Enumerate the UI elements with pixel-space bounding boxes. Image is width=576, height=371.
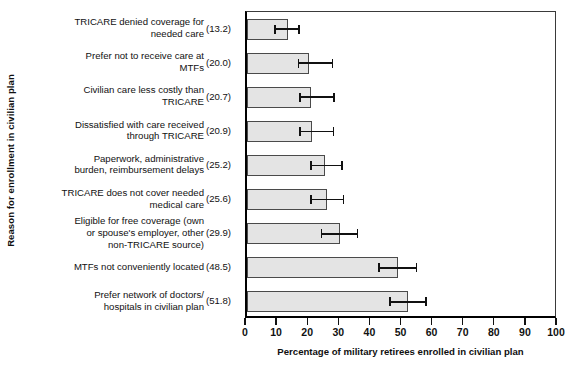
error-bar-cap-low [274, 25, 276, 34]
x-axis-tick [400, 318, 401, 325]
x-axis-tick [493, 318, 494, 325]
category-label-row: Prefer network of doctors/ hospitals in … [22, 284, 204, 318]
category-label: Civilian care less costly than TRICARE [83, 84, 204, 108]
value-label: (29.9) [206, 227, 231, 238]
error-bar-cap-high [343, 195, 345, 204]
category-label-row: MTFs not conveniently located [22, 250, 204, 284]
error-bar-cap-low [378, 263, 380, 272]
error-bar [311, 165, 342, 167]
error-bar-cap-high [333, 93, 335, 102]
value-label-row: (48.5) [206, 250, 242, 284]
value-label-row: (13.2) [206, 11, 242, 45]
x-axis-tick [369, 318, 370, 325]
x-axis-tick-label: 0 [242, 326, 248, 338]
y-axis-title-text: Reason for enrollment in civilian plan [5, 74, 16, 247]
error-bar-cap-low [310, 195, 312, 204]
chart-page: Reason for enrollment in civilian plan T… [0, 0, 576, 371]
error-bar-cap-high [298, 25, 300, 34]
value-label-row: (20.0) [206, 45, 242, 79]
y-axis-title: Reason for enrollment in civilian plan [0, 0, 20, 320]
category-label-row: Prefer not to receive care at MTFs [22, 45, 204, 79]
error-bar-cap-low [299, 127, 301, 136]
value-label: (20.7) [206, 91, 231, 102]
bar [247, 257, 398, 278]
category-label-column: TRICARE denied coverage for needed careP… [22, 11, 204, 318]
error-bar-cap-high [333, 127, 335, 136]
error-bar [275, 28, 299, 30]
error-bar-cap-high [332, 59, 334, 68]
x-axis-tick [555, 318, 556, 325]
value-label: (25.2) [206, 159, 231, 170]
category-label: Paperwork, administrative burden, reimbu… [74, 153, 204, 177]
x-axis-tick-label: 50 [395, 326, 407, 338]
x-axis-tick [338, 318, 339, 325]
category-label: TRICARE denied coverage for needed care [74, 16, 204, 40]
error-bar-cap-high [425, 297, 427, 306]
plot-area [245, 11, 556, 318]
x-axis-tick-label: 20 [301, 326, 313, 338]
value-label: (48.5) [206, 261, 231, 272]
error-bar-cap-low [299, 93, 301, 102]
error-bar-cap-high [416, 263, 418, 272]
x-axis-tick [524, 318, 525, 325]
value-label-row: (20.7) [206, 79, 242, 113]
x-axis-tick [307, 318, 308, 325]
error-bar-cap-high [341, 161, 343, 170]
error-bar-cap-low [298, 59, 300, 68]
error-bar-cap-low [389, 297, 391, 306]
error-bar [300, 96, 334, 98]
value-label-column: (13.2)(20.0)(20.7)(20.9)(25.2)(25.6)(29.… [206, 11, 242, 318]
x-axis-tick [431, 318, 432, 325]
category-label-row: Paperwork, administrative burden, reimbu… [22, 147, 204, 181]
x-axis-tick-label: 10 [270, 326, 282, 338]
x-axis-tick-label: 90 [519, 326, 531, 338]
x-axis-tick-label: 60 [426, 326, 438, 338]
category-label-row: Eligible for free coverage (own or spous… [22, 216, 204, 250]
category-label: Dissatisfied with care received through … [75, 119, 204, 143]
value-label: (20.0) [206, 57, 231, 68]
x-axis-tick [244, 318, 245, 325]
category-label: Prefer network of doctors/ hospitals in … [94, 289, 204, 313]
value-label-row: (25.6) [206, 182, 242, 216]
category-label: TRICARE does not cover needed medical ca… [62, 187, 204, 211]
value-label-row: (20.9) [206, 113, 242, 147]
value-label-row: (25.2) [206, 147, 242, 181]
error-bar-cap-low [321, 229, 323, 238]
x-axis-tick [275, 318, 276, 325]
value-label: (51.8) [206, 295, 231, 306]
x-axis-tick-label: 100 [547, 326, 565, 338]
x-axis-title: Percentage of military retirees enrolled… [245, 346, 556, 357]
category-label-row: TRICARE does not cover needed medical ca… [22, 182, 204, 216]
value-label-row: (51.8) [206, 284, 242, 318]
value-label-row: (29.9) [206, 216, 242, 250]
bar [247, 291, 408, 312]
error-bar-cap-high [357, 229, 359, 238]
error-bar [298, 62, 332, 64]
error-bar [390, 301, 426, 303]
value-label: (25.6) [206, 193, 231, 204]
category-label: Prefer not to receive care at MTFs [86, 50, 204, 74]
category-label-row: TRICARE denied coverage for needed care [22, 11, 204, 45]
x-axis-tick [462, 318, 463, 325]
value-label: (13.2) [206, 23, 231, 34]
error-bar [379, 267, 416, 269]
error-bar [322, 233, 358, 235]
category-label-row: Civilian care less costly than TRICARE [22, 79, 204, 113]
value-label: (20.9) [206, 125, 231, 136]
category-label-row: Dissatisfied with care received through … [22, 113, 204, 147]
x-axis-tick-label: 30 [332, 326, 344, 338]
x-axis-tick-labels: 0102030405060708090100 [245, 326, 556, 340]
category-label: MTFs not conveniently located [74, 261, 204, 273]
error-bar [311, 199, 344, 201]
category-label: Eligible for free coverage (own or spous… [74, 215, 204, 250]
x-axis-tick-label: 70 [457, 326, 469, 338]
x-axis-tick-label: 40 [364, 326, 376, 338]
error-bar [300, 131, 334, 133]
x-axis-tick-label: 80 [488, 326, 500, 338]
error-bar-cap-low [310, 161, 312, 170]
